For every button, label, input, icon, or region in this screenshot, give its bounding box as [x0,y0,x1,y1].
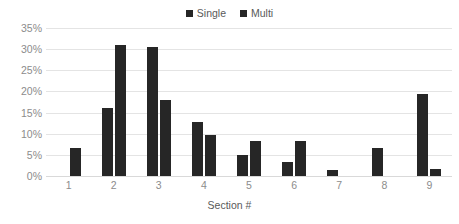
x-axis-tick-label: 8 [381,180,387,191]
bar-chart: Single Multi 0%5%10%15%20%25%30%35% 1234… [0,0,459,224]
bar-single-section-6 [282,162,293,176]
x-axis-tick-label: 3 [156,180,162,191]
y-axis-tick-label: 20% [0,86,42,97]
x-axis-tick-label: 2 [111,180,117,191]
bar-single-section-8 [372,148,383,176]
x-axis-title: Section # [0,200,459,211]
x-axis-tick-label: 9 [427,180,433,191]
bar-group [272,28,317,176]
bar-group [91,28,136,176]
bar-group [136,28,181,176]
bar-group [46,28,91,176]
chart-legend: Single Multi [0,8,459,19]
bar-group [407,28,452,176]
square-marker-icon [186,10,193,17]
bar-single-section-4 [192,122,203,176]
bar-single-section-5 [237,155,248,176]
legend-entry-multi: Multi [240,8,273,19]
x-axis-tick-label: 7 [336,180,342,191]
square-marker-icon [240,10,247,17]
legend-label-single: Single [197,8,226,19]
bar-group [226,28,271,176]
legend-entry-single: Single [186,8,226,19]
bar-single-section-9 [417,94,428,176]
bar-single-section-7 [327,170,338,176]
y-axis-tick-label: 10% [0,128,42,139]
y-axis-labels: 0%5%10%15%20%25%30%35% [0,28,42,176]
bar-multi-section-1 [70,148,81,176]
y-axis-tick-label: 0% [0,171,42,182]
gridline [46,176,452,177]
y-axis-tick-label: 35% [0,23,42,34]
bar-multi-section-2 [115,45,126,176]
bar-multi-section-6 [295,141,306,176]
y-axis-tick-label: 5% [0,150,42,161]
x-axis-tick-label: 6 [291,180,297,191]
bar-multi-section-4 [205,135,216,176]
x-axis-tick-label: 1 [66,180,72,191]
bar-single-section-3 [147,47,158,176]
x-axis-tick-label: 5 [246,180,252,191]
bar-group [181,28,226,176]
bar-multi-section-5 [250,141,261,176]
legend-label-multi: Multi [251,8,273,19]
y-axis-tick-label: 15% [0,107,42,118]
y-axis-tick-label: 25% [0,65,42,76]
bar-series-container [46,28,452,176]
plot-area [46,28,452,176]
bar-single-section-2 [102,108,113,177]
x-axis-labels: 123456789 [46,180,452,196]
bar-group [362,28,407,176]
bar-group [317,28,362,176]
y-axis-tick-label: 30% [0,44,42,55]
x-axis-tick-label: 4 [201,180,207,191]
bar-multi-section-3 [160,100,171,176]
bar-multi-section-9 [430,169,441,176]
